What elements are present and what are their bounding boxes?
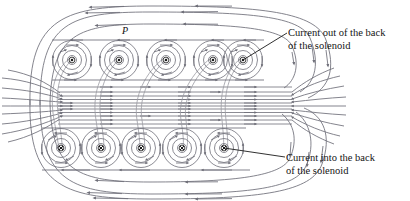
top-ring-arrows <box>53 40 262 80</box>
annotation-current-out-line2: of the solenoid <box>288 40 385 53</box>
right-exterior-field-lines <box>292 68 346 144</box>
current-out-dot <box>118 59 121 62</box>
leader-current-out <box>243 33 287 60</box>
coil-in-3 <box>122 129 161 168</box>
annotation-current-in: Current into the back of the solenoid <box>286 152 375 177</box>
figure-canvas: Current out of the back of the solenoid … <box>0 0 410 201</box>
leader-current-in <box>224 148 285 157</box>
coil-in-4 <box>163 129 202 168</box>
current-out-dot <box>71 59 74 62</box>
annotation-current-in-line2: of the solenoid <box>286 165 375 178</box>
current-out-dot <box>212 59 215 62</box>
annotation-current-in-line1: Current into the back <box>286 152 375 165</box>
annotation-current-out-line1: Current out of the back <box>288 27 385 40</box>
annotation-current-out: Current out of the back of the solenoid <box>288 27 385 52</box>
interior-field-lines <box>58 87 292 124</box>
current-out-dot <box>165 59 168 62</box>
point-p-label: P <box>122 25 128 36</box>
interior-field-arrows <box>62 87 256 124</box>
coil-in-2 <box>82 129 121 168</box>
top-coil-row <box>53 41 263 80</box>
bottom-coil-row <box>42 129 244 168</box>
